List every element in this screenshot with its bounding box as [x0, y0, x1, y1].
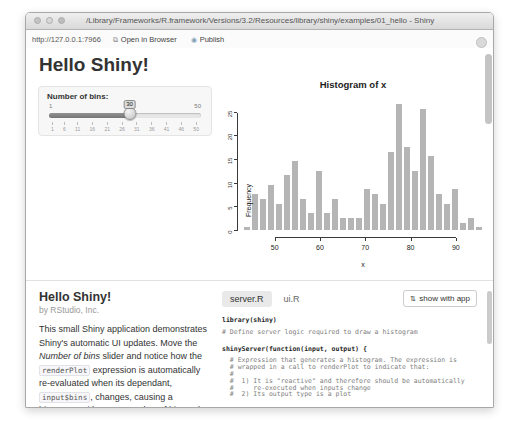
- minimize-button[interactable]: [46, 17, 53, 24]
- slider-scale-tick: 50: [193, 122, 199, 132]
- bins-slider[interactable]: 1 50 30 16111621263136414650: [49, 103, 201, 137]
- docs-section: Hello Shiny! by RStudio, Inc. This small…: [26, 280, 493, 407]
- histogram-bar: [331, 198, 339, 231]
- code-tabs-row: server.Rui.R ⇅ show with app: [222, 290, 477, 307]
- histogram-bar: [307, 212, 315, 231]
- plot-area: Frequency 05101520255060708090: [243, 101, 483, 231]
- histogram-bar: [435, 193, 443, 231]
- histogram-bar: [475, 226, 483, 231]
- show-with-app-label: show with app: [419, 294, 470, 303]
- histogram-bar: [419, 108, 427, 231]
- slider-scale-tick: 36: [149, 122, 155, 132]
- code-line: # wrapped in a call to renderPlot to ind…: [222, 364, 477, 371]
- slider-scale-tick: 31: [134, 122, 140, 132]
- histogram-bar: [379, 203, 387, 231]
- histogram-bar: [427, 155, 435, 231]
- slider-scale-tick: 6: [63, 122, 66, 132]
- y-tick-label: 20: [227, 129, 233, 145]
- close-button[interactable]: [34, 17, 41, 24]
- window-titlebar[interactable]: /Library/Frameworks/R.framework/Versions…: [26, 13, 493, 30]
- x-tick: [320, 238, 321, 241]
- code-tabs: server.Rui.R: [222, 291, 312, 307]
- x-tick: [365, 238, 366, 241]
- y-axis-line: [237, 113, 238, 231]
- publish-icon: ◉: [191, 36, 197, 43]
- slider-min-label: 1: [49, 103, 52, 109]
- code-scrollbar-thumb[interactable]: [487, 291, 492, 344]
- inline-code: input$bins: [39, 392, 90, 403]
- code-block[interactable]: library(shiny) # Define server logic req…: [222, 317, 477, 407]
- y-tick: [234, 230, 237, 231]
- slider-scale-tick: 21: [104, 122, 110, 132]
- slider-scale-tick: 1: [51, 122, 54, 132]
- window-title: /Library/Frameworks/R.framework/Versions…: [26, 13, 493, 29]
- sidebar-well: Number of bins: 1 50 30 1611162126313641…: [38, 86, 212, 136]
- shiny-viewer-window: /Library/Frameworks/R.framework/Versions…: [25, 12, 494, 408]
- code-line: # Define server logic required to draw a…: [222, 329, 477, 336]
- docs-paragraph: This small Shiny application demonstrate…: [39, 323, 209, 407]
- x-tick-label: 90: [446, 244, 466, 251]
- description-text: This small Shiny application demonstrate…: [39, 324, 207, 348]
- histogram-bar: [451, 188, 459, 231]
- histogram-bar: [363, 188, 371, 231]
- inline-code: renderPlot: [39, 365, 90, 376]
- zoom-button[interactable]: [58, 17, 65, 24]
- histogram-bar: [459, 222, 467, 231]
- x-tick-label: 50: [265, 244, 285, 251]
- docs-byline: by RStudio, Inc.: [39, 305, 209, 315]
- histogram-bar: [411, 170, 419, 231]
- slider-scale-tick: 16: [90, 122, 96, 132]
- y-tick: [234, 159, 237, 160]
- main-scrollbar-thumb[interactable]: [485, 54, 492, 124]
- histogram-bar: [339, 217, 347, 231]
- tab-ui.R[interactable]: ui.R: [276, 291, 308, 307]
- slider-scale-tick: 46: [179, 122, 185, 132]
- open-in-browser-button[interactable]: ⧉ Open in Browser: [113, 35, 177, 44]
- show-with-app-icon: ⇅: [410, 295, 416, 303]
- y-tick: [234, 206, 237, 207]
- x-tick: [411, 238, 412, 241]
- histogram-bar: [299, 198, 307, 231]
- slider-max-label: 50: [194, 103, 201, 109]
- histogram-bar: [291, 160, 299, 231]
- x-axis-label: x: [243, 261, 483, 268]
- code-line: shinyServer(function(input, output) {: [222, 346, 477, 353]
- histogram-bar: [443, 203, 451, 231]
- publish-button[interactable]: ◉ Publish: [191, 35, 225, 44]
- histogram-bar: [315, 170, 323, 231]
- x-tick-label: 70: [355, 244, 375, 251]
- y-tick-label: 5: [227, 200, 233, 216]
- docs-title: Hello Shiny!: [39, 290, 209, 304]
- histogram-plot: Histogram of x Frequency 051015202550607…: [209, 75, 493, 277]
- app-url[interactable]: http://127.0.0.1:7966: [32, 35, 101, 44]
- scroll-widget-icon[interactable]: [476, 37, 487, 48]
- histogram-bar: [355, 217, 363, 231]
- code-line: library(shiny): [222, 317, 477, 324]
- publish-label: Publish: [200, 35, 225, 44]
- tab-server.R[interactable]: server.R: [222, 291, 272, 307]
- y-tick-label: 0: [227, 224, 233, 240]
- y-tick: [234, 112, 237, 113]
- viewer-toolbar: http://127.0.0.1:7966 ⧉ Open in Browser …: [26, 30, 493, 49]
- x-tick: [456, 238, 457, 241]
- y-axis-label: Frequency: [245, 181, 252, 221]
- histogram-bar: [387, 151, 395, 231]
- x-tick-label: 60: [310, 244, 330, 251]
- slider-scale-tick: 11: [75, 122, 80, 132]
- code-line: # 2) Its output type is a plot: [222, 391, 477, 398]
- open-in-browser-icon: ⧉: [113, 36, 118, 43]
- histogram-bar: [347, 217, 355, 231]
- app-description: Hello Shiny! by RStudio, Inc. This small…: [39, 290, 209, 407]
- histogram-bar: [371, 193, 379, 231]
- histogram-bar: [283, 174, 291, 231]
- x-tick: [275, 238, 276, 241]
- show-with-app-button[interactable]: ⇅ show with app: [403, 290, 477, 307]
- histogram-bar: [267, 184, 275, 231]
- histogram-bar: [243, 226, 251, 231]
- histogram-bar: [403, 146, 411, 231]
- histogram-bars: [243, 101, 483, 231]
- open-in-browser-label: Open in Browser: [121, 35, 177, 44]
- y-tick-label: 25: [227, 106, 233, 122]
- slider-fill: [49, 113, 130, 118]
- y-tick: [234, 183, 237, 184]
